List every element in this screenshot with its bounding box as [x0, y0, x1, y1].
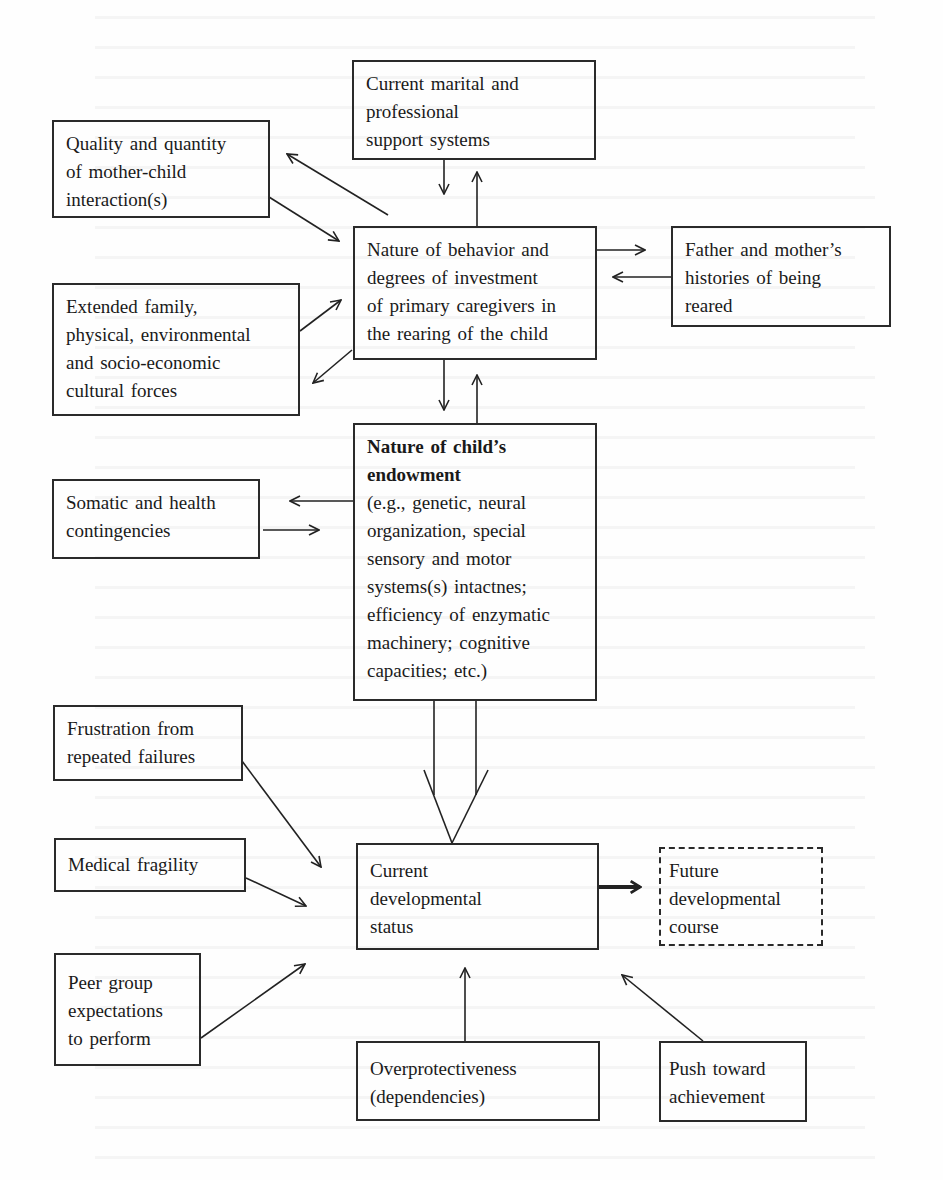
node-title: endowment — [367, 461, 585, 489]
node-text: status — [370, 913, 587, 941]
node-text: histories of being — [685, 264, 879, 292]
node-title: Nature of child’s — [367, 433, 585, 461]
node-text: physical, environmental — [66, 321, 288, 349]
node-text: efficiency of enzymatic — [367, 601, 585, 629]
node-text: capacities; etc.) — [367, 657, 585, 685]
node-parent-histories: Father and mother’s histories of being r… — [671, 226, 891, 327]
node-text: of primary caregivers in — [367, 292, 585, 320]
node-text: contingencies — [66, 517, 248, 545]
node-frustration: Frustration from repeated failures — [53, 705, 243, 781]
node-text: of mother-child — [66, 158, 258, 186]
node-text: support systems — [366, 126, 584, 154]
node-text: sensory and motor — [367, 545, 585, 573]
node-text: developmental — [370, 885, 587, 913]
node-text: Peer group — [68, 969, 189, 997]
arrow-quality-to-behavior — [269, 197, 339, 241]
wide-arrow-endowment-to-status — [424, 700, 488, 843]
arrow-frustration-to-status — [242, 761, 321, 867]
node-text: course — [669, 913, 811, 941]
node-child-endowment: Nature of child’s endowment (e.g., genet… — [353, 423, 597, 701]
node-text: machinery; cognitive — [367, 629, 585, 657]
node-text: Father and mother’s — [685, 236, 879, 264]
node-text: Quality and quantity — [66, 130, 258, 158]
node-text: professional — [366, 98, 584, 126]
node-text: reared — [685, 292, 879, 320]
arrow-behavior-to-quality — [287, 154, 388, 215]
node-text: (dependencies) — [370, 1083, 588, 1111]
node-text: Frustration from — [67, 715, 231, 743]
node-text: Nature of behavior and — [367, 236, 585, 264]
node-text: to perform — [68, 1025, 189, 1053]
node-push-achievement: Push toward achievement — [659, 1041, 807, 1122]
node-medical-fragility: Medical fragility — [54, 838, 246, 892]
node-text: Somatic and health — [66, 489, 248, 517]
node-extended-family: Extended family, physical, environmental… — [52, 283, 300, 416]
node-text: repeated failures — [67, 743, 231, 771]
node-text: the rearing of the child — [367, 320, 585, 348]
node-text: systems(s) intactnes; — [367, 573, 585, 601]
node-text: Current marital and — [366, 70, 584, 98]
node-current-status: Current developmental status — [356, 843, 599, 950]
node-caregiver-behavior: Nature of behavior and degrees of invest… — [353, 226, 597, 360]
node-somatic-health: Somatic and health contingencies — [52, 479, 260, 559]
node-peer-expectations: Peer group expectations to perform — [54, 953, 201, 1066]
node-text: developmental — [669, 885, 811, 913]
node-text: Future — [669, 857, 811, 885]
node-text: Overprotectiveness — [370, 1055, 588, 1083]
node-quality-interaction: Quality and quantity of mother-child int… — [52, 120, 270, 218]
node-text: (e.g., genetic, neural — [367, 489, 585, 517]
node-text: cultural forces — [66, 377, 288, 405]
node-marital-support: Current marital and professional support… — [352, 60, 596, 160]
diagram-page: Current marital and professional support… — [0, 0, 943, 1180]
node-overprotectiveness: Overprotectiveness (dependencies) — [356, 1041, 600, 1121]
node-future-course: Future developmental course — [659, 847, 823, 946]
node-text: and socio-economic — [66, 349, 288, 377]
node-text: achievement — [669, 1083, 795, 1111]
arrow-medical-to-status — [246, 878, 306, 906]
node-text: Medical fragility — [68, 851, 234, 879]
node-text: interaction(s) — [66, 186, 258, 214]
node-text: Extended family, — [66, 293, 288, 321]
node-text: organization, special — [367, 517, 585, 545]
node-text: degrees of investment — [367, 264, 585, 292]
node-text: expectations — [68, 997, 189, 1025]
node-text: Current — [370, 857, 587, 885]
node-text: Push toward — [669, 1055, 795, 1083]
